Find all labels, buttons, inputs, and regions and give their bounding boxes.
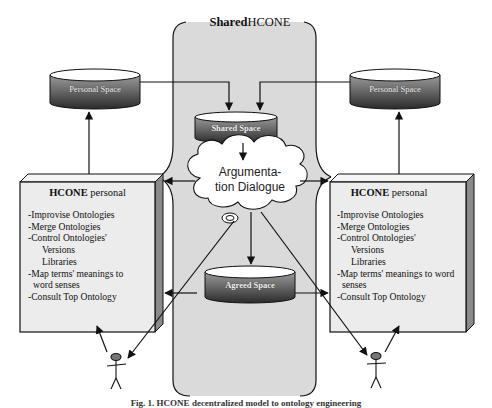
argumentation-dialogue-label: Argumenta- tion Dialogue	[205, 165, 295, 195]
feature-item: -Improvise Ontologies	[28, 209, 153, 221]
actor-right-icon	[367, 353, 386, 389]
feature-item: -Merge Ontologies	[337, 221, 467, 233]
personal-space-left-label: Personal Space	[50, 84, 140, 94]
hcone-left-title-rest: personal	[88, 187, 126, 198]
diagram	[0, 0, 492, 408]
feature-item: -Improvise Ontologies	[337, 209, 467, 221]
shared-title-rest: HCONE	[247, 15, 290, 29]
feature-item: -Control Ontologies'	[337, 232, 467, 244]
cloud-line-1: Argumenta-	[205, 165, 295, 180]
feature-item: -Control Ontologies'	[28, 232, 153, 244]
feature-subitem: Versions	[337, 244, 467, 256]
shared-space-label: Shared Space	[195, 123, 277, 133]
feature-item: -Consult Top Ontology	[337, 291, 467, 303]
feature-item: -Map terms' meanings to	[28, 268, 153, 280]
cloud-line-2: tion Dialogue	[205, 180, 295, 195]
feature-item: -Map terms' meanings to word	[337, 268, 467, 280]
shared-title-bold: Shared	[209, 15, 247, 29]
feature-subitem: Libraries	[28, 256, 153, 268]
feature-continuation: word senses	[28, 279, 153, 291]
feature-continuation: senses	[337, 279, 467, 291]
hcone-left-title-bold: HCONE	[49, 187, 88, 198]
hcone-left-features: -Improvise Ontologies -Merge Ontologies …	[28, 209, 153, 303]
figure-caption: Fig. 1. HCONE decentralized model to ont…	[0, 398, 492, 408]
actor-left-icon	[107, 354, 126, 390]
personal-space-right-label: Personal Space	[350, 84, 440, 94]
hcone-right-title-bold: HCONE	[351, 187, 390, 198]
feature-item: -Consult Top Ontology	[28, 291, 153, 303]
feature-subitem: Versions	[28, 244, 153, 256]
hcone-right-title-rest: personal	[389, 187, 427, 198]
feature-subitem: Libraries	[337, 256, 467, 268]
feature-item: -Merge Ontologies	[28, 221, 153, 233]
shared-hcone-region	[158, 22, 331, 396]
hcone-right-features: -Improvise Ontologies -Merge Ontologies …	[337, 209, 467, 303]
hcone-right-title: HCONE personal	[330, 187, 448, 198]
shared-hcone-title: SharedHCONE	[200, 15, 300, 30]
agreed-space-label: Agreed Space	[205, 280, 295, 290]
hcone-left-title: HCONE personal	[20, 187, 155, 198]
